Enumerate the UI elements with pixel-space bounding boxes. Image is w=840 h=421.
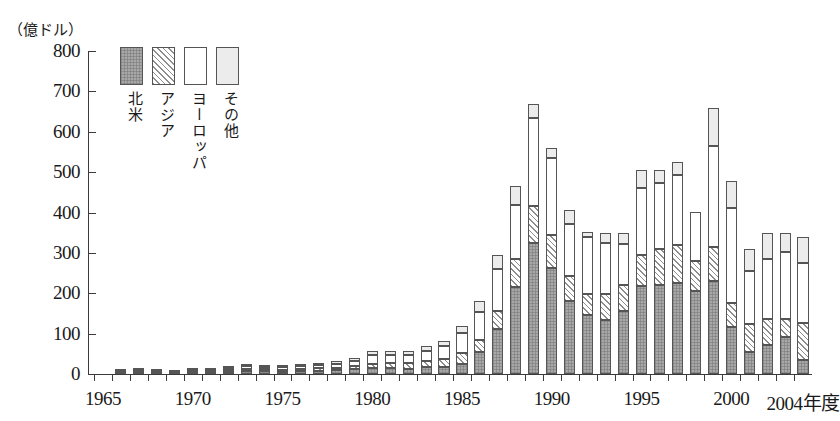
legend-label: その他 [217, 91, 238, 139]
bar-segment-ヨーロッパ [474, 312, 485, 340]
bar-segment-アジア [564, 276, 575, 302]
bar-segment-その他 [797, 237, 808, 264]
bar-1978 [331, 361, 342, 374]
x-tick-mark [579, 375, 580, 381]
x-tick-mark [561, 375, 562, 381]
bar-segment-ヨーロッパ [618, 244, 629, 285]
y-tick-label: 100 [22, 323, 80, 345]
bar-segment-その他 [421, 346, 432, 351]
bar-segment-アジア [331, 368, 342, 371]
bar-1967 [133, 370, 144, 374]
bar-segment-アジア [762, 319, 773, 344]
bar-1988 [510, 186, 521, 374]
bar-segment-ヨーロッパ [295, 366, 306, 369]
bar-1997 [672, 162, 683, 374]
x-tick-mark [130, 375, 131, 381]
bar-segment-北米 [403, 369, 414, 374]
x-tick-mark [615, 375, 616, 381]
bar-segment-ヨーロッパ [546, 158, 557, 235]
bar-2004 [797, 237, 808, 374]
bar-2000 [726, 181, 737, 374]
bar-segment-その他 [403, 351, 414, 355]
bar-segment-北米 [241, 371, 252, 374]
bar-segment-北米 [277, 372, 288, 374]
bar-1992 [582, 232, 593, 374]
bar-1968 [151, 370, 162, 374]
x-tick-mark [345, 375, 346, 381]
bar-segment-北米 [313, 371, 324, 374]
y-tick-mark [89, 334, 96, 335]
x-tick-mark [112, 375, 113, 381]
bar-segment-ヨーロッパ [313, 365, 324, 368]
bar-segment-その他 [618, 233, 629, 244]
bar-segment-北米 [672, 283, 683, 374]
x-tick-mark [94, 375, 95, 381]
x-tick-mark [327, 375, 328, 381]
bar-segment-その他 [151, 369, 162, 371]
bar-segment-北米 [331, 370, 342, 374]
y-tick-label: 200 [22, 282, 80, 304]
x-tick-mark [417, 375, 418, 381]
bar-1991 [564, 210, 575, 374]
bar-segment-ヨーロッパ [367, 355, 378, 364]
bar-segment-アジア [726, 303, 737, 327]
y-tick-mark [89, 172, 96, 173]
bar-segment-その他 [385, 351, 396, 355]
x-tick-mark [381, 375, 382, 381]
legend-label: 北米 [121, 91, 142, 123]
bar-1966 [115, 370, 126, 374]
bar-segment-ヨーロッパ [564, 224, 575, 276]
bar-segment-ヨーロッパ [349, 361, 360, 366]
x-tick-mark [256, 375, 257, 381]
x-tick-mark [202, 375, 203, 381]
x-tick-mark [274, 375, 275, 381]
bar-segment-北米 [690, 291, 701, 374]
x-tick-mark [740, 375, 741, 381]
x-tick-mark [794, 375, 795, 381]
y-tick-label: 300 [22, 242, 80, 264]
bar-segment-アジア [313, 368, 324, 370]
bar-segment-北米 [456, 364, 467, 374]
x-tick-label: 1995 [623, 388, 659, 410]
bar-segment-ヨーロッパ [331, 364, 342, 368]
bar-segment-北米 [546, 268, 557, 374]
bar-segment-アジア [349, 366, 360, 370]
x-tick-mark [686, 375, 687, 381]
bar-segment-アジア [780, 319, 791, 337]
bar-segment-その他 [169, 370, 180, 372]
y-tick-mark [89, 253, 96, 254]
bar-segment-その他 [600, 233, 611, 243]
x-tick-mark [148, 375, 149, 381]
bar-segment-ヨーロッパ [421, 351, 432, 361]
bar-segment-アジア [510, 259, 521, 287]
bar-segment-ヨーロッパ [600, 243, 611, 294]
bar-segment-ヨーロッパ [797, 263, 808, 322]
bar-segment-ヨーロッパ [582, 237, 593, 294]
bar-segment-その他 [780, 233, 791, 253]
y-tick-mark [89, 293, 96, 294]
bar-segment-その他 [744, 249, 755, 272]
bar-segment-その他 [205, 368, 216, 370]
y-tick-label: 0 [22, 363, 80, 385]
bar-segment-ヨーロッパ [654, 183, 665, 249]
bar-1970 [187, 369, 198, 374]
x-tick-mark [650, 375, 651, 381]
bar-segment-北米 [492, 329, 503, 374]
x-tick-label: 1975 [264, 388, 300, 410]
bar-segment-その他 [349, 358, 360, 361]
bar-segment-アジア [744, 324, 755, 352]
x-tick-mark [704, 375, 705, 381]
bar-segment-北米 [708, 281, 719, 374]
bar-segment-北米 [295, 371, 306, 374]
bar-segment-アジア [367, 364, 378, 368]
bar-segment-ヨーロッパ [708, 146, 719, 247]
bar-segment-ヨーロッパ [690, 212, 701, 261]
bar-1994 [618, 233, 629, 374]
bar-segment-北米 [744, 352, 755, 374]
bar-segment-北米 [582, 315, 593, 374]
legend-swatch-north [120, 47, 143, 85]
x-tick-mark [184, 375, 185, 381]
bar-segment-その他 [277, 365, 288, 367]
bar-segment-その他 [474, 301, 485, 311]
bar-1977 [313, 363, 324, 374]
